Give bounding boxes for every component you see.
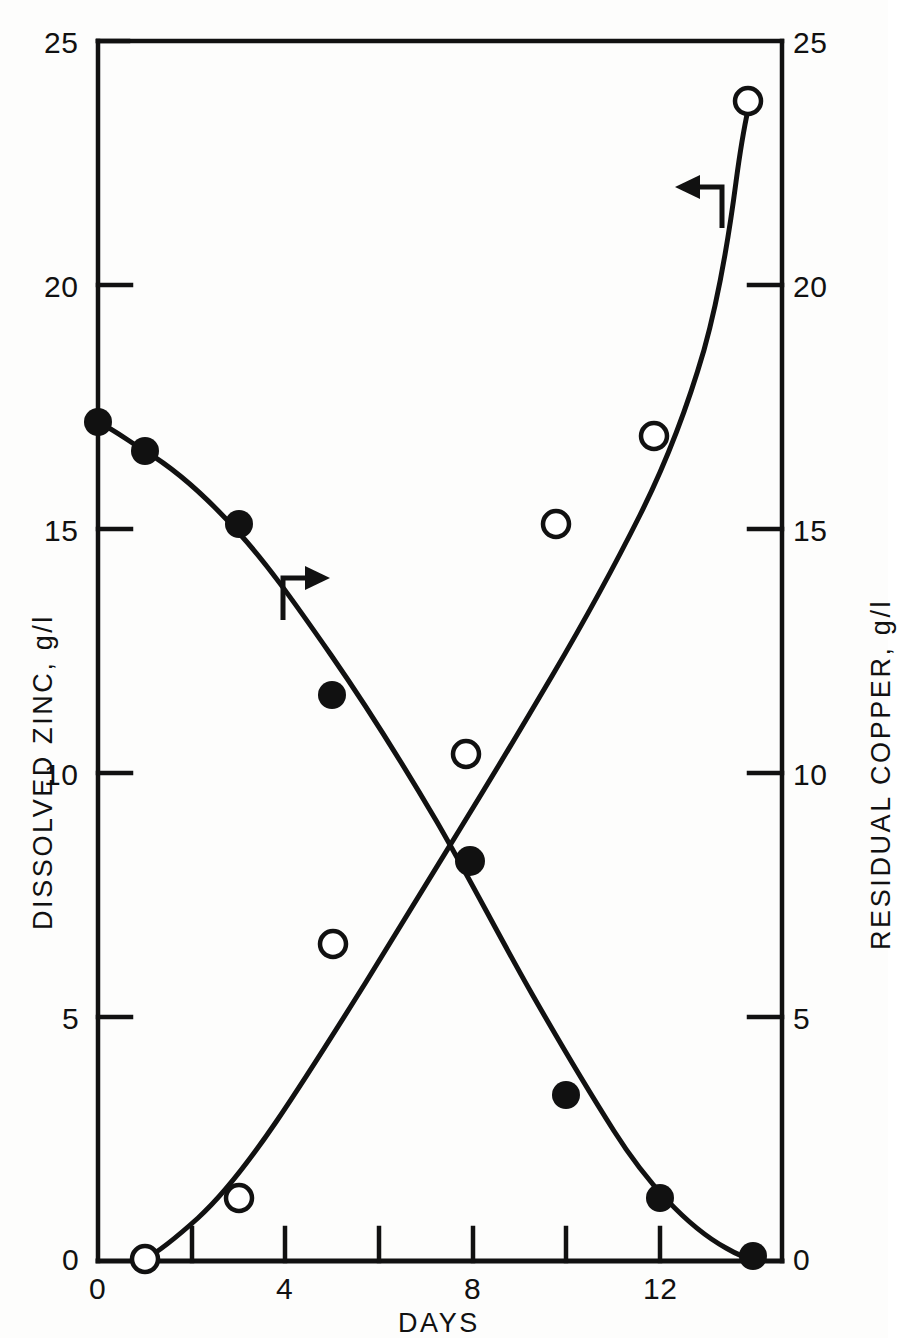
zinc-point-day5: [318, 681, 346, 709]
dissolved-zinc-curve: [98, 422, 753, 1259]
residual-copper-markers: [132, 88, 761, 1272]
zinc-point-day10: [552, 1081, 580, 1109]
left-axis-title: DISSOLVED ZINC, g/l: [28, 614, 59, 930]
copper-point-day3: [226, 1185, 252, 1211]
residual-copper-curve: [145, 110, 748, 1259]
right-ytick-label-15: 15: [793, 514, 827, 548]
copper-point-day5: [320, 931, 346, 957]
zinc-point-day12: [646, 1184, 674, 1212]
left-ytick-label-5: 5: [62, 1002, 79, 1036]
axis-frame: [98, 41, 782, 1261]
xtick-label-4: 4: [276, 1272, 293, 1306]
left-ytick-label-15: 15: [44, 514, 78, 548]
zinc-point-day0: [84, 408, 112, 436]
xtick-label-12: 12: [643, 1272, 677, 1306]
x-axis-ticks: [192, 1228, 660, 1261]
right-ytick-label-25: 25: [793, 26, 827, 60]
right-axis-title: RESIDUAL COPPER, g/l: [866, 599, 897, 950]
left-ytick-label-0: 0: [62, 1243, 79, 1277]
xtick-label-8: 8: [464, 1272, 481, 1306]
copper-point-day1: [132, 1246, 158, 1272]
left-ytick-label-20: 20: [44, 270, 78, 304]
dissolved-zinc-markers: [84, 408, 767, 1270]
xtick-label-0: 0: [89, 1272, 106, 1306]
right-ytick-label-20: 20: [793, 270, 827, 304]
left-ytick-label-25: 25: [44, 26, 78, 60]
right-ytick-label-5: 5: [793, 1002, 810, 1036]
copper-point-day10: [543, 511, 569, 537]
copper-point-day8: [453, 741, 479, 767]
zinc-point-day8: [455, 846, 485, 876]
zinc-point-day14: [739, 1242, 767, 1270]
right-axis-ticks: [749, 285, 782, 1017]
copper-point-day14: [735, 88, 761, 114]
arrow-left-icon: [675, 175, 722, 228]
right-ytick-label-0: 0: [793, 1243, 810, 1277]
zinc-point-day3: [225, 510, 253, 538]
copper-point-day12: [641, 423, 667, 449]
right-ytick-label-10: 10: [793, 758, 827, 792]
zinc-point-day1: [131, 437, 159, 465]
left-axis-ticks: [98, 41, 131, 1017]
x-axis-title: DAYS: [398, 1308, 480, 1338]
